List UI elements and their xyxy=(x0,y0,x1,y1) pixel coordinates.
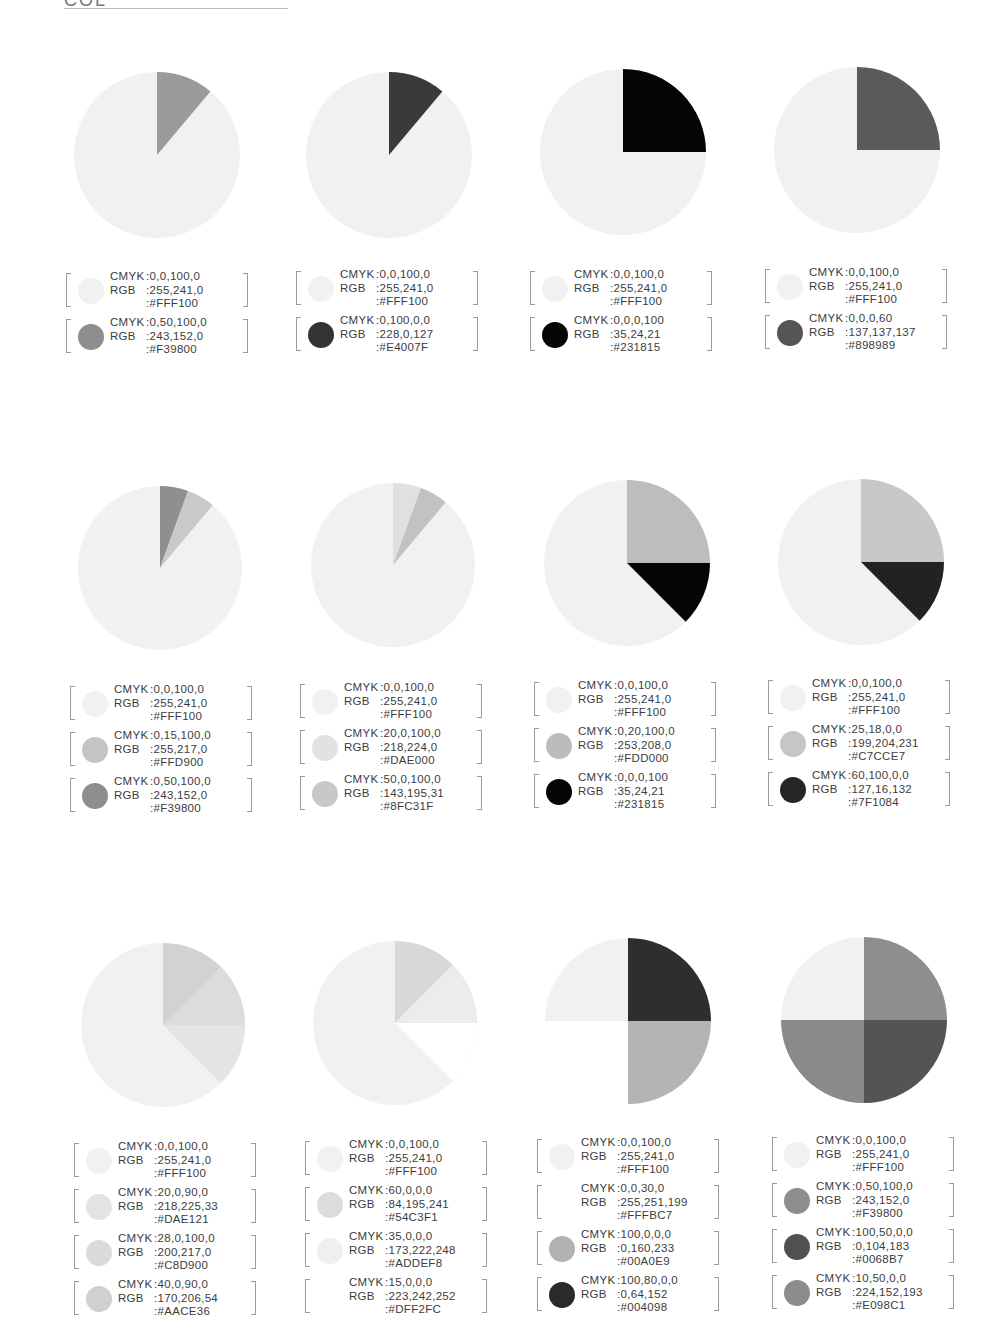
color-swatch-icon xyxy=(312,735,338,761)
bracket-right xyxy=(473,317,478,351)
swatch-entry: CMYK:60,0,0,0RGB:84,195,241:#54C3F1 xyxy=(305,1184,487,1230)
color-legend-9: CMYK:0,0,100,0RGB:255,241,0:#FFF100CMYK:… xyxy=(74,1140,256,1322)
color-swatch-icon xyxy=(317,1146,343,1172)
bracket-right xyxy=(711,774,716,808)
color-legend-8: CMYK:0,0,100,0RGB:255,241,0:#FFF100CMYK:… xyxy=(768,677,950,815)
cmyk-label: CMYK xyxy=(812,769,848,783)
rgb-value: 255,241,0 xyxy=(384,695,438,707)
swatch-entry: CMYK:0,0,100,0RGB:255,241,0:#FFF100 xyxy=(765,266,947,312)
pie-chart-11 xyxy=(543,936,713,1106)
color-swatch-icon xyxy=(312,689,338,715)
cmyk-value: 0,0,0,60 xyxy=(849,312,893,324)
rgb-value: 243,152,0 xyxy=(856,1194,910,1206)
hex-value: #54C3F1 xyxy=(389,1211,438,1223)
swatch-entry: CMYK:25,18,0,0RGB:199,204,231:#C7CCE7 xyxy=(768,723,950,769)
rgb-value: 199,204,231 xyxy=(852,737,919,749)
rgb-label: RGB xyxy=(816,1194,852,1208)
hex-value: #FFF100 xyxy=(158,1167,207,1179)
cmyk-value: 35,0,0,0 xyxy=(389,1230,433,1242)
bracket-left xyxy=(772,1229,777,1263)
bracket-left xyxy=(534,682,539,716)
color-swatch-icon xyxy=(78,324,104,350)
cmyk-value: 0,0,100,0 xyxy=(384,681,435,693)
hex-value: #FFF100 xyxy=(849,293,898,305)
cmyk-label: CMYK xyxy=(118,1140,154,1154)
rgb-value: 228,0,127 xyxy=(380,328,434,340)
pie-slice xyxy=(864,1020,947,1103)
bracket-right xyxy=(243,273,248,307)
rgb-label: RGB xyxy=(816,1240,852,1254)
rgb-label: RGB xyxy=(816,1286,852,1300)
bracket-left xyxy=(66,319,71,353)
swatch-entry: CMYK:0,0,100,0RGB:255,241,0:#FFF100 xyxy=(74,1140,256,1186)
rgb-value: 137,137,137 xyxy=(849,326,916,338)
swatch-entry: CMYK:100,0,0,0RGB:0,160,233:#00A0E9 xyxy=(537,1228,719,1274)
cmyk-value: 10,50,0,0 xyxy=(856,1272,907,1284)
rgb-label: RGB xyxy=(578,739,614,753)
bracket-right xyxy=(477,776,482,810)
swatch-entry: CMYK:0,0,100,0RGB:255,241,0:#FFF100 xyxy=(70,683,252,729)
bracket-right xyxy=(243,319,248,353)
color-swatch-icon xyxy=(86,1148,112,1174)
swatch-entry: CMYK:0,0,100,0RGB:255,241,0:#FFF100 xyxy=(305,1138,487,1184)
color-legend-11: CMYK:0,0,100,0RGB:255,241,0:#FFF100CMYK:… xyxy=(537,1136,719,1320)
bracket-right xyxy=(482,1233,487,1267)
cmyk-value: 100,80,0,0 xyxy=(621,1274,678,1286)
cmyk-label: CMYK xyxy=(812,723,848,737)
cmyk-label: CMYK xyxy=(581,1228,617,1242)
color-swatch-icon xyxy=(784,1234,810,1260)
bracket-right xyxy=(714,1277,719,1311)
rgb-label: RGB xyxy=(809,280,845,294)
hex-value: #DAE000 xyxy=(384,754,435,766)
bracket-right xyxy=(711,728,716,762)
bracket-left xyxy=(768,680,773,714)
pie-slice xyxy=(628,938,711,1021)
hex-value: #C8D900 xyxy=(158,1259,209,1271)
bracket-right xyxy=(473,271,478,305)
cmyk-value: 20,0,100,0 xyxy=(384,727,441,739)
bracket-left xyxy=(70,686,75,720)
rgb-value: 255,241,0 xyxy=(852,691,906,703)
bracket-right xyxy=(945,680,950,714)
pie-slice xyxy=(857,67,940,150)
color-swatch-icon xyxy=(308,322,334,348)
cmyk-label: CMYK xyxy=(344,727,380,741)
rgb-value: 127,16,132 xyxy=(852,783,913,795)
title-rule xyxy=(64,8,288,9)
cmyk-label: CMYK xyxy=(578,725,614,739)
swatch-entry: CMYK:0,15,100,0RGB:255,217,0:#FFD900 xyxy=(70,729,252,775)
cmyk-label: CMYK xyxy=(110,316,146,330)
bracket-left xyxy=(305,1233,310,1267)
rgb-label: RGB xyxy=(581,1242,617,1256)
pie-chart-8 xyxy=(776,477,946,647)
bracket-right xyxy=(251,1235,256,1269)
cmyk-label: CMYK xyxy=(110,270,146,284)
cmyk-label: CMYK xyxy=(344,681,380,695)
bracket-left xyxy=(537,1185,542,1219)
hex-value: #ADDEF8 xyxy=(389,1257,443,1269)
rgb-value: 218,224,0 xyxy=(384,741,438,753)
bracket-right xyxy=(247,732,252,766)
rgb-label: RGB xyxy=(344,695,380,709)
pie-slice xyxy=(627,480,710,563)
rgb-value: 170,206,54 xyxy=(158,1292,219,1304)
pie-chart-10 xyxy=(311,939,479,1107)
color-legend-10: CMYK:0,0,100,0RGB:255,241,0:#FFF100CMYK:… xyxy=(305,1138,487,1322)
color-swatch-icon xyxy=(317,1284,343,1310)
cmyk-label: CMYK xyxy=(340,314,376,328)
rgb-label: RGB xyxy=(809,326,845,340)
cmyk-label: CMYK xyxy=(809,312,845,326)
bracket-right xyxy=(949,1183,954,1217)
cmyk-value: 0,0,0,100 xyxy=(618,771,669,783)
rgb-label: RGB xyxy=(581,1150,617,1164)
pie-slice xyxy=(864,937,947,1020)
cmyk-label: CMYK xyxy=(118,1278,154,1292)
rgb-value: 255,241,0 xyxy=(849,280,903,292)
rgb-value: 255,241,0 xyxy=(380,282,434,294)
swatch-entry: CMYK:0,0,100,0RGB:255,241,0:#FFF100 xyxy=(768,677,950,723)
cmyk-value: 0,0,100,0 xyxy=(389,1138,440,1150)
rgb-label: RGB xyxy=(344,741,380,755)
hex-value: #004098 xyxy=(621,1301,668,1313)
hex-value: #FFF100 xyxy=(380,295,429,307)
color-swatch-icon xyxy=(549,1236,575,1262)
